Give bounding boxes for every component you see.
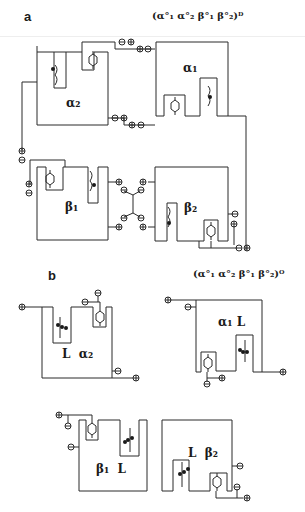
subunit-beta2-L-b (162, 420, 243, 498)
subunit-alpha2-L-b (25, 296, 133, 378)
subunit-alpha1-L-b (170, 300, 280, 382)
2-3-dpg-molecule (124, 191, 140, 217)
hemoglobin-salt-bridge-diagram (0, 0, 305, 512)
subunit-beta1-L-b (62, 415, 147, 491)
subunit-beta1-a (30, 160, 116, 240)
subunit-beta2-a (148, 167, 237, 248)
subunit-alpha2-a (22, 42, 155, 150)
